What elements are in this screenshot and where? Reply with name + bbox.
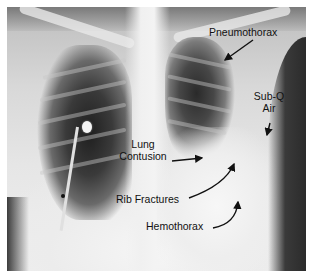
- label-lung-line2: Contusion: [114, 150, 172, 162]
- radiopaque-marker: [61, 194, 65, 198]
- label-subq-line1: Sub-Q: [246, 90, 292, 102]
- label-rib-fractures: Rib Fractures: [116, 193, 179, 205]
- label-lung-contusion: Lung Contusion: [114, 138, 172, 162]
- label-subq-air: Sub-Q Air: [246, 90, 292, 114]
- label-hemothorax: Hemothorax: [146, 220, 203, 232]
- left-body-edge: [7, 197, 29, 271]
- label-subq-line2: Air: [246, 102, 292, 114]
- label-pneumothorax: Pneumothorax: [209, 26, 277, 38]
- label-lung-line1: Lung: [114, 138, 172, 150]
- pacing-lead-tip: [82, 121, 92, 133]
